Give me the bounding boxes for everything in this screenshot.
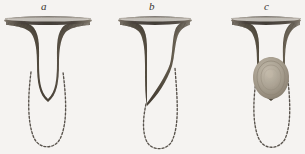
engraving-plate: a b c xyxy=(0,0,305,154)
paper-tone xyxy=(0,0,305,154)
figure-label-b: b xyxy=(149,1,155,12)
plate-artwork xyxy=(0,0,305,154)
figure-label-a: a xyxy=(41,1,47,12)
figure-label-c: c xyxy=(264,1,269,12)
